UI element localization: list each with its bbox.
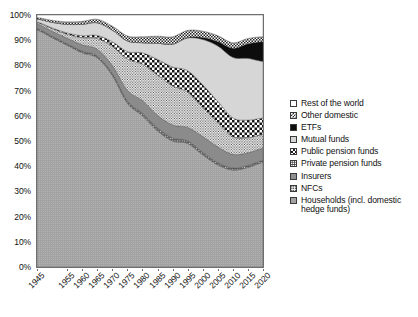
plot-svg: [37, 15, 263, 267]
legend-swatch-public-pension-funds: [290, 148, 297, 155]
legend-item[interactable]: Mutual funds: [290, 135, 416, 145]
stacked-area-chart: 0%10%20%30%40%50%60%70%80%90%100%: [0, 0, 418, 317]
plot-area: [36, 14, 264, 268]
legend-item[interactable]: ETFs: [290, 123, 416, 133]
legend-item-label: Other domestic: [301, 111, 358, 121]
legend-swatch-rest-of-the-world: [290, 100, 297, 107]
y-tick-label: 100%: [10, 11, 31, 20]
y-tick-label: 0%: [19, 263, 31, 272]
legend-item-label: Mutual funds: [301, 135, 349, 145]
legend-item-label: Insurers: [301, 172, 331, 182]
y-tick-label: 30%: [14, 187, 31, 196]
legend-swatch-households: [290, 197, 297, 204]
legend-item-label: ETFs: [301, 123, 321, 133]
y-tick-label: 10%: [14, 238, 31, 247]
legend-item-label: NFCs: [301, 184, 323, 194]
legend-swatch-mutual-funds: [290, 136, 297, 143]
legend-item[interactable]: Rest of the world: [290, 99, 416, 109]
legend-item-label: Private pension funds: [301, 159, 382, 169]
legend-item[interactable]: Insurers: [290, 172, 416, 182]
legend-item[interactable]: Public pension funds: [290, 147, 416, 157]
legend-swatch-insurers: [290, 173, 297, 180]
y-tick-label: 40%: [14, 162, 31, 171]
legend-swatch-nfcs: [290, 185, 297, 192]
legend-item[interactable]: Private pension funds: [290, 159, 416, 169]
y-tick-label: 20%: [14, 212, 31, 221]
legend-swatch-other-domestic: [290, 112, 297, 119]
legend-item[interactable]: NFCs: [290, 184, 416, 194]
legend-item-label-continuation: hedge funds): [301, 205, 401, 215]
x-axis: 1945195519601965197019751980198519901995…: [36, 269, 264, 315]
legend-item-label: Households (incl. domestichedge funds): [301, 196, 401, 215]
y-tick-label: 60%: [14, 112, 31, 121]
y-axis: 0%10%20%30%40%50%60%70%80%90%100%: [0, 14, 34, 268]
x-tick-label: 2020: [253, 271, 272, 290]
legend-item[interactable]: Households (incl. domestichedge funds): [290, 196, 416, 215]
legend-item-label: Public pension funds: [301, 147, 378, 157]
y-tick-label: 50%: [14, 137, 31, 146]
chart-legend: Rest of the worldOther domesticETFsMutua…: [290, 99, 416, 217]
y-tick-label: 80%: [14, 61, 31, 70]
x-tick-label: 1945: [27, 271, 46, 290]
y-tick-label: 70%: [14, 86, 31, 95]
legend-item-label: Rest of the world: [301, 99, 364, 109]
y-tick-label: 90%: [14, 36, 31, 45]
legend-swatch-etfs: [290, 124, 297, 131]
legend-item[interactable]: Other domestic: [290, 111, 416, 121]
legend-swatch-private-pension-funds: [290, 160, 297, 167]
